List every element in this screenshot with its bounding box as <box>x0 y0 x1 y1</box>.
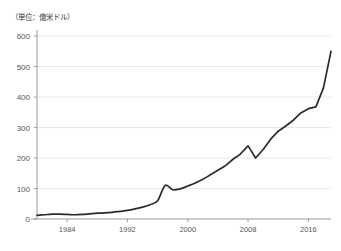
y-tick-label: 300 <box>4 123 30 132</box>
x-tick-label: 1992 <box>107 225 147 234</box>
x-tick-label: 2016 <box>288 225 328 234</box>
y-tick-label: 100 <box>4 184 30 193</box>
x-tick-label: 2008 <box>228 225 268 234</box>
line-chart: （単位：億米ドル） 0100200300400500600 1984199220… <box>0 0 341 251</box>
gridlines <box>37 36 331 188</box>
y-tick-label: 200 <box>4 154 30 163</box>
x-tick-label: 2000 <box>168 225 208 234</box>
y-tick-label: 400 <box>4 93 30 102</box>
data-series-line <box>37 51 331 215</box>
y-tick-label: 600 <box>4 32 30 41</box>
x-tick-label: 1984 <box>47 225 87 234</box>
y-tick-label: 0 <box>4 215 30 224</box>
y-tick-label: 500 <box>4 62 30 71</box>
plot-area <box>0 0 341 251</box>
